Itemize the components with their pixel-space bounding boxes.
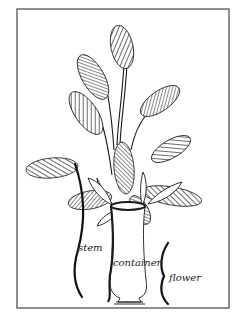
flower-head <box>112 141 136 195</box>
vase <box>108 202 147 304</box>
vase-rim <box>111 202 145 210</box>
flower-head <box>107 23 138 71</box>
flower-arrangement-diagram: stem container flower <box>0 0 237 320</box>
label-stem: stem <box>78 242 103 253</box>
stem-bracket <box>75 164 84 297</box>
label-flower: flower <box>168 272 202 283</box>
label-container: container <box>113 257 163 268</box>
flower-head <box>25 156 79 180</box>
flower-head <box>135 80 184 123</box>
flower-bracket <box>161 243 168 304</box>
flower-heads <box>25 23 203 228</box>
flower-head <box>147 130 194 168</box>
